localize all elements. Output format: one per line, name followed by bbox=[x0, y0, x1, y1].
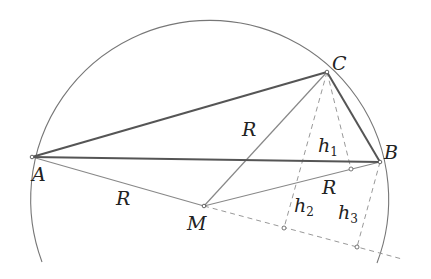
dashed-height-h3 bbox=[357, 162, 380, 247]
geometry-diagram: A B C M R R R h1 h2 h3 bbox=[0, 0, 431, 279]
side-ac bbox=[32, 72, 327, 157]
label-h1: h1 bbox=[318, 134, 338, 159]
vertex-a-marker bbox=[30, 155, 34, 159]
label-r-mb: R bbox=[321, 176, 336, 198]
label-r-ma: R bbox=[115, 187, 130, 209]
side-ab bbox=[32, 157, 380, 162]
label-h2: h2 bbox=[294, 194, 314, 219]
label-h3: h3 bbox=[338, 201, 358, 226]
vertex-b-marker bbox=[378, 160, 382, 164]
foot-point-h2 bbox=[282, 226, 286, 230]
foot-point-h3 bbox=[355, 245, 359, 249]
label-b: B bbox=[383, 141, 398, 163]
foot-point-h1 bbox=[349, 167, 353, 171]
radius-mc bbox=[204, 72, 327, 206]
radius-mb bbox=[204, 162, 380, 206]
vertex-c-marker bbox=[325, 70, 329, 74]
label-c: C bbox=[332, 52, 347, 74]
label-a: A bbox=[30, 163, 46, 185]
label-r-mc: R bbox=[241, 118, 256, 140]
label-m: M bbox=[186, 212, 207, 234]
center-m-marker bbox=[202, 204, 206, 208]
